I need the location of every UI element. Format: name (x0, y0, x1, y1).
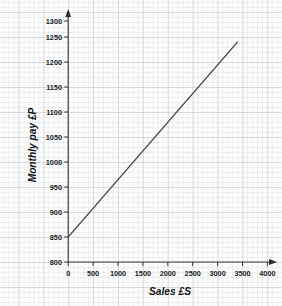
data-series-line (68, 42, 237, 237)
x-tick-labels: 0 500 1000 1500 2000 2500 3000 3500 4000 (66, 269, 275, 278)
x-axis-title: Sales £S (149, 286, 191, 297)
y-tick-label: 1100 (46, 108, 62, 117)
y-tick-label: 900 (50, 208, 62, 217)
y-tick-label: 1050 (46, 133, 62, 142)
chart-page: 800 850 900 950 1000 1050 1100 1150 1200… (0, 0, 282, 306)
y-tick-labels: 800 850 900 950 1000 1050 1100 1150 1200… (46, 17, 62, 267)
y-tick-label: 1200 (46, 58, 62, 67)
y-tick-marks (64, 21, 68, 262)
y-axis-title: Monthly pay £P (27, 107, 38, 182)
x-tick-label: 1000 (110, 269, 126, 278)
x-tick-label: 1500 (135, 269, 151, 278)
x-tick-label: 500 (87, 269, 99, 278)
x-tick-marks (68, 262, 267, 266)
y-tick-label: 1250 (46, 33, 62, 42)
y-tick-label: 850 (50, 233, 62, 242)
x-tick-label: 3500 (234, 269, 250, 278)
x-tick-label: 0 (66, 269, 70, 278)
y-tick-label: 950 (50, 183, 62, 192)
y-tick-label: 800 (50, 258, 62, 267)
x-tick-label: 2500 (185, 269, 201, 278)
line-chart: 800 850 900 950 1000 1050 1100 1150 1200… (0, 0, 282, 306)
x-tick-label: 3000 (209, 269, 225, 278)
x-tick-label: 2000 (160, 269, 176, 278)
y-tick-label: 1150 (46, 83, 62, 92)
y-tick-label: 1000 (46, 158, 62, 167)
y-tick-label: 1300 (46, 17, 62, 26)
x-tick-label: 4000 (259, 269, 275, 278)
y-axis-arrow-icon (65, 9, 71, 17)
x-axis-arrow-icon (269, 259, 277, 265)
